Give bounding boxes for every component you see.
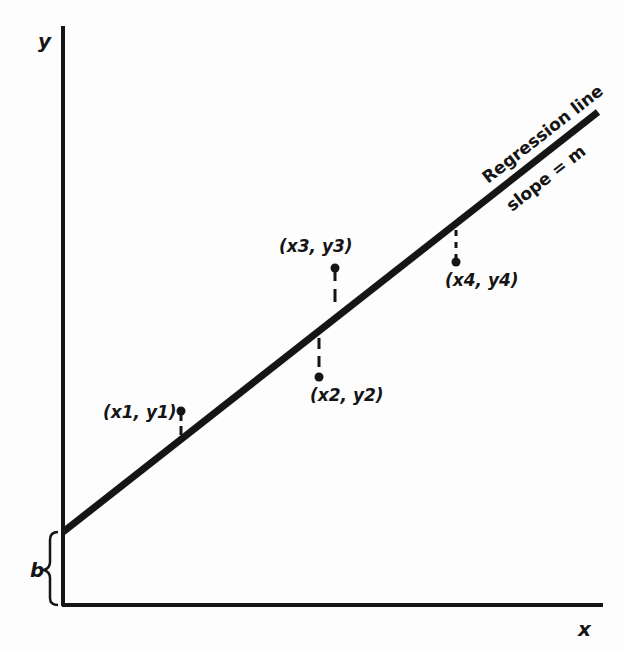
point-4 — [452, 258, 461, 267]
point-label-2: (x2, y2) — [310, 385, 384, 405]
point-1 — [177, 407, 186, 416]
intercept-brace — [44, 532, 58, 605]
intercept-label: b — [30, 558, 44, 582]
x-axis-label: x — [577, 617, 592, 641]
point-3 — [331, 264, 340, 273]
point-label-1: (x1, y1) — [103, 402, 177, 422]
point-label-4: (x4, y4) — [445, 270, 519, 290]
regression-line — [63, 112, 598, 532]
point-label-3: (x3, y3) — [279, 236, 353, 256]
regression-diagram: y x b Regression line slope = m (x1, y1)… — [0, 0, 625, 651]
point-2 — [315, 373, 324, 382]
y-axis-label: y — [38, 29, 52, 53]
